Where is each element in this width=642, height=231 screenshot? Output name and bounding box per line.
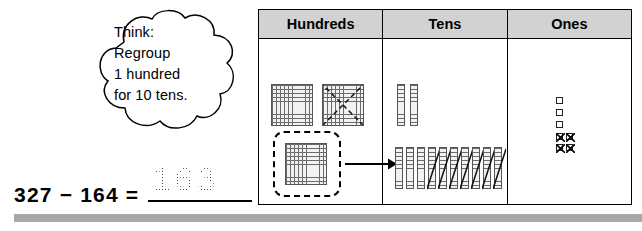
cross-out-x-icon [566,144,575,153]
bubble-text-block: Think: Regroup 1 hundred for 10 tens. [114,22,236,106]
bubble-line-4: for 10 tens. [114,85,236,106]
answer-value: 163 [152,161,219,199]
cross-out-x-icon [556,144,565,153]
one-unit [556,97,563,104]
chart-header-ones: Ones [508,10,631,39]
cross-out-x-icon [323,85,363,125]
chart-body-row [259,39,631,204]
bubble-line-1: Think: [114,22,236,43]
ten-rod [406,147,414,189]
ten-rod-crossed [461,147,469,189]
ten-rod-crossed [483,147,491,189]
hundred-flat-block-crossed [322,84,364,126]
one-unit-crossed [556,133,563,140]
subtraction-equation: 327 − 164 = 163 [14,168,252,207]
equation-expression: 327 − 164 = [14,183,139,207]
chart-header-tens: Tens [383,10,507,39]
cross-out-x-icon [566,133,575,142]
footer-rule-bar [14,214,642,222]
ten-rod [397,84,405,126]
ten-rod-crossed [428,147,436,189]
ten-rod-crossed [450,147,458,189]
one-unit [556,121,563,128]
bubble-line-2: Regroup [114,43,236,64]
ten-rod [410,84,418,126]
ten-rod-crossed [472,147,480,189]
chart-cell-hundreds [259,39,383,204]
one-unit-crossed [556,144,563,151]
cross-out-x-icon [556,133,565,142]
one-unit-crossed [566,133,573,140]
chart-header-row: Hundreds Tens Ones [259,10,631,39]
hundred-flat-block [271,84,313,126]
ten-rod [395,147,403,189]
think-regroup-bubble: Think: Regroup 1 hundred for 10 tens. [86,4,244,144]
ten-rod-crossed [494,147,502,189]
cross-out-slash-icon [493,147,506,191]
chart-cell-ones [508,39,631,204]
one-unit-crossed [566,144,573,151]
ten-rod-crossed [439,147,447,189]
one-unit [556,109,563,116]
chart-header-hundreds: Hundreds [259,10,383,39]
hundred-flat-block-regrouped [285,143,327,185]
bubble-line-3: 1 hundred [114,64,236,85]
answer-blank[interactable]: 163 [148,168,252,202]
place-value-chart: Hundreds Tens Ones [258,9,632,205]
ten-rod [417,147,425,189]
chart-cell-tens [383,39,507,204]
